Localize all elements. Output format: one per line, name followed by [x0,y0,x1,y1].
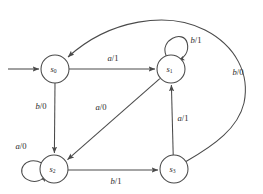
state-node-s2[interactable]: s2 [40,155,68,183]
state-diagram-canvas: s0 s1 s2 s3 a/1 b/0 a/0 b/1 a/0 b/1 a/1 … [0,0,263,194]
transition-s0-s2 [54,83,55,153]
transition-s1-s2 [68,79,160,160]
transition-s3-s1 [171,85,173,155]
caption-strip [0,185,263,194]
transition-label-s3-s1: a/1 [178,113,189,123]
transition-label-s1-s1: b/1 [191,35,202,45]
transition-s3-s0 [68,20,245,161]
state-node-s3[interactable]: s3 [160,155,188,183]
transition-label-s2-s2: a/0 [16,141,27,151]
state-node-s0[interactable]: s0 [41,55,69,83]
state-diagram-svg: s0 s1 s2 s3 a/1 b/0 a/0 b/1 a/0 b/1 a/1 … [0,0,263,194]
transition-label-s3-s0: b/0 [233,67,244,77]
transition-label-s0-s2: b/0 [36,101,47,111]
state-node-s1[interactable]: s1 [157,55,185,83]
transition-label-s1-s2: a/0 [96,102,107,112]
transition-label-s0-s1: a/1 [108,53,119,63]
